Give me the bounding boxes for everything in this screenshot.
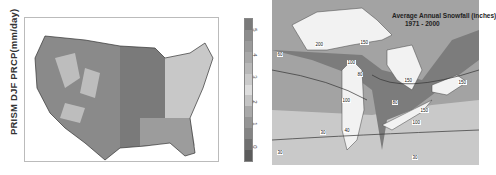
contour-label: 150 [360,40,369,45]
contour-label: 200 [315,42,324,47]
contour-label: 30 [320,130,326,135]
contour-label: 150 [458,80,467,85]
contour-label: 30 [412,155,418,160]
great-lakes-snowfall-map: 200 150 100 80 60 40 30 100 150 150 100 … [272,0,479,165]
snowfall-map-subtitle: 1971 - 2000 [405,20,440,27]
snowfall-map-title: Average Annual Snowfall (inches) [392,12,496,19]
us-west-region [35,36,120,160]
contour-label: 100 [347,60,356,65]
contour-label: 100 [342,98,351,103]
precip-colorbar [244,18,253,162]
contour-label: 100 [412,120,421,125]
colorbar-tick: 3 [252,75,258,78]
colorbar-segment [245,128,252,139]
contour-label: 30 [277,150,283,155]
colorbar-segment [245,106,252,117]
colorbar-segment [245,41,252,52]
us-map-svg [25,18,218,161]
us-southeast-region [140,118,195,156]
colorbar-segment [245,85,252,96]
colorbar-tick: 2 [252,100,258,103]
colorbar-segment [245,150,252,161]
colorbar-tick: 5 [252,28,258,31]
contour-label: 80 [392,100,398,105]
contour-label: 40 [344,128,350,133]
snowfall-svg [272,0,479,165]
colorbar-tick: 0 [252,145,258,148]
colorbar-tick: 1 [252,122,258,125]
contour-label: 80 [357,72,363,77]
colorbar-tick: 4 [252,53,258,56]
left-map-ylabel: PRISM DJF PRCP(mm/day) [8,9,19,135]
prism-precip-map [24,17,219,162]
contour-label: 150 [404,78,413,83]
contour-label: 150 [420,108,429,113]
colorbar-segment [245,63,252,74]
contour-label: 60 [277,52,283,57]
